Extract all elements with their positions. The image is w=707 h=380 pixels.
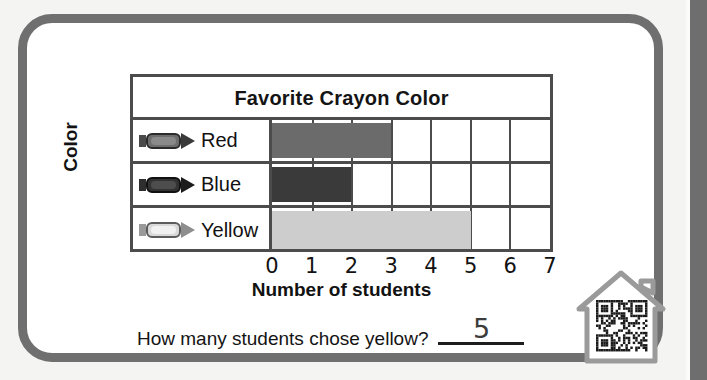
handwritten-answer: 5 [473,315,490,342]
row-track-blue [272,164,550,205]
row-label-yellow: Yellow [133,208,272,252]
gridline [509,120,511,161]
plot-area: Red [133,120,550,249]
row-track-yellow [272,208,550,252]
x-tick-label: 6 [498,254,522,278]
question-row: How many students chose yellow? 5 [137,316,524,350]
row-label-text: Red [201,129,238,152]
worksheet-page: Color Favorite Crayon Color [0,0,707,380]
blue-crayon-icon [138,175,196,195]
bar-red [272,123,391,158]
chart-frame: Favorite Crayon Color Red [130,74,553,252]
bar-yellow [272,211,471,249]
red-crayon-icon [138,131,196,151]
gridline [470,120,472,161]
x-tick-label: 2 [339,254,363,278]
x-tick-label: 5 [459,254,483,278]
row-label-red: Red [133,120,272,161]
row-label-text: Yellow [201,219,258,242]
gridline [509,164,511,205]
answer-blank-line[interactable]: 5 [438,316,524,345]
x-axis-ticks: 01234567 [130,254,553,280]
gridline [430,120,432,161]
yellow-crayon-icon [138,220,196,240]
bar-chart: Favorite Crayon Color Red [130,74,553,252]
row-label-text: Blue [201,173,241,196]
page-right-gutter [690,0,707,380]
table-row: Yellow [133,208,550,252]
x-tick-label: 7 [538,254,562,278]
y-axis-title: Color [60,122,82,172]
row-label-blue: Blue [133,164,272,205]
x-axis-title: Number of students [130,279,553,301]
bar-blue [272,167,351,202]
table-row: Blue [133,164,550,208]
row-track-red [272,120,550,161]
x-tick-label: 1 [300,254,324,278]
table-row: Red [133,120,550,164]
chart-title: Favorite Crayon Color [133,77,550,120]
x-tick-label: 3 [379,254,403,278]
worksheet-card: Color Favorite Crayon Color [18,14,663,362]
gridline [391,164,393,205]
qr-code-house-icon[interactable] [575,269,667,367]
x-tick-label: 4 [419,254,443,278]
gridline [430,164,432,205]
x-tick-label: 0 [260,254,284,278]
question-text: How many students chose yellow? [137,328,428,350]
gridline [470,164,472,205]
gridline [509,208,511,252]
